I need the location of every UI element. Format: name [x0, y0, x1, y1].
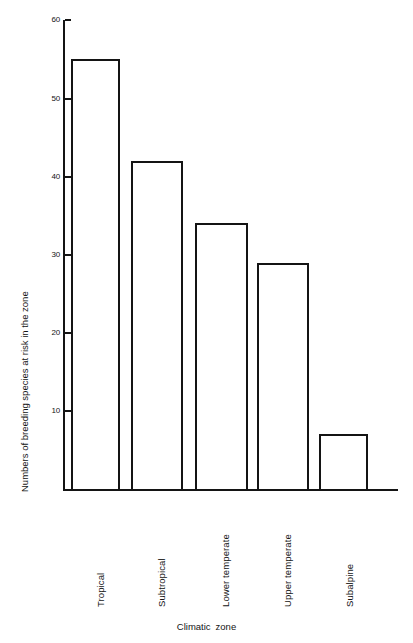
x-label-subalpine: Subalpine: [345, 564, 355, 607]
y-tick-label-60: 60: [38, 16, 60, 24]
bar-upper-temperate: [257, 263, 309, 491]
x-label-lower-temperate: Lower temperate: [221, 534, 231, 607]
y-tick-label-30: 30: [38, 251, 60, 259]
x-axis-title: Climaticzone: [0, 621, 413, 632]
y-tick-label-40: 40: [38, 173, 60, 181]
bar-tropical: [71, 59, 120, 491]
x-label-subtropical: Subtropical: [157, 558, 167, 607]
bar-subtropical: [131, 161, 183, 491]
bar-lower-temperate: [195, 223, 248, 491]
bar-chart-figure: 102030405060 TropicalSubtropicalLower te…: [0, 0, 413, 643]
x-axis-title-word-2: zone: [216, 621, 237, 632]
y-tick-mark-60: [65, 19, 71, 21]
x-label-tropical: Tropical: [96, 573, 106, 607]
x-label-upper-temperate: Upper temperate: [283, 534, 293, 607]
y-axis-title: Numbers of breeding species at risk in t…: [20, 291, 30, 492]
y-tick-label-10: 10: [38, 407, 60, 415]
y-tick-label-20: 20: [38, 329, 60, 337]
x-axis-title-word-1: Climatic: [177, 621, 211, 632]
bar-subalpine: [319, 434, 368, 491]
y-tick-label-50: 50: [38, 95, 60, 103]
